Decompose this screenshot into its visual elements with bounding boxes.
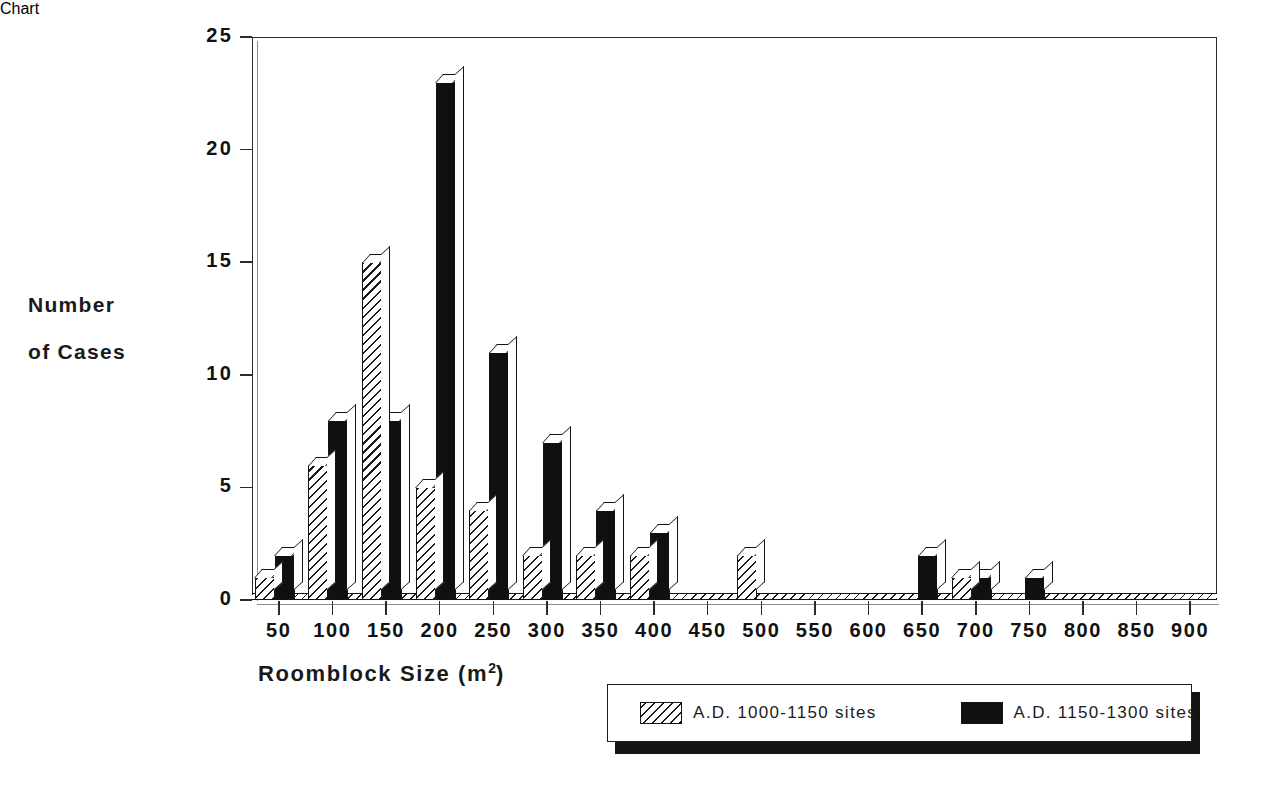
y-tick-label-0: 0 bbox=[173, 587, 233, 610]
x-axis-title-base: Roomblock Size (m bbox=[258, 661, 488, 686]
x-tick-850 bbox=[1136, 601, 1138, 615]
bar-side-face bbox=[542, 539, 551, 590]
bar-700-series1 bbox=[952, 577, 972, 600]
legend-label-1: A.D. 1000-1150 sites bbox=[693, 703, 877, 723]
y-tick-label-10: 10 bbox=[173, 362, 233, 385]
x-tick-450 bbox=[707, 601, 709, 615]
legend-label-2: A.D. 1150-1300 sites bbox=[1014, 703, 1198, 723]
legend-entry-1: A.D. 1000-1150 sites bbox=[640, 702, 877, 724]
x-tick-500 bbox=[761, 601, 763, 615]
bar-150-series1 bbox=[362, 262, 382, 600]
solid-black-swatch-icon bbox=[961, 702, 1003, 724]
hatched-swatch-icon bbox=[640, 702, 682, 724]
x-tick-600 bbox=[868, 601, 870, 615]
y-tick-label-20: 20 bbox=[173, 137, 233, 160]
x-tick-650 bbox=[921, 601, 923, 615]
bar-750-series2 bbox=[1025, 577, 1045, 600]
bar-side-face bbox=[455, 66, 464, 590]
x-tick-400 bbox=[653, 601, 655, 615]
legend-entry-2: A.D. 1150-1300 sites bbox=[961, 702, 1198, 724]
x-axis-title: Roomblock Size (m2) bbox=[258, 660, 505, 687]
bar-side-face bbox=[401, 404, 410, 590]
bar-100-series1 bbox=[308, 465, 328, 600]
bar-650-series2 bbox=[918, 555, 938, 600]
bar-500-series1 bbox=[737, 555, 757, 600]
x-tick-200 bbox=[439, 601, 441, 615]
x-tick-label-900: 900 bbox=[1155, 619, 1225, 642]
x-tick-350 bbox=[600, 601, 602, 615]
x-axis-title-superscript: 2 bbox=[488, 660, 496, 676]
y-tick-label-5: 5 bbox=[173, 474, 233, 497]
bar-side-face bbox=[347, 404, 356, 590]
y-tick-0 bbox=[240, 599, 252, 601]
y-tick-25 bbox=[240, 36, 252, 38]
bar-side-face bbox=[294, 539, 303, 590]
bar-side-face bbox=[649, 539, 658, 590]
bar-side-face bbox=[669, 516, 678, 590]
bar-side-face bbox=[327, 449, 336, 590]
y-tick-10 bbox=[240, 374, 252, 376]
x-tick-50 bbox=[278, 601, 280, 615]
bar-side-face bbox=[756, 539, 765, 590]
y-tick-15 bbox=[240, 261, 252, 263]
x-tick-800 bbox=[1082, 601, 1084, 615]
bar-400-series1 bbox=[630, 555, 650, 600]
bar-side-face bbox=[595, 539, 604, 590]
y-tick-label-15: 15 bbox=[173, 249, 233, 272]
x-axis-title-tail: ) bbox=[496, 661, 505, 686]
bar-side-face bbox=[435, 471, 444, 590]
bar-200-series1 bbox=[416, 487, 436, 600]
y-tick-label-25: 25 bbox=[173, 24, 233, 47]
bar-side-face bbox=[488, 494, 497, 590]
bar-250-series1 bbox=[469, 510, 489, 600]
plot-left-edge-shade bbox=[257, 41, 258, 601]
x-tick-100 bbox=[332, 601, 334, 615]
bar-side-face bbox=[381, 246, 390, 590]
y-axis-title-line-1: Number bbox=[28, 281, 208, 328]
x-tick-550 bbox=[814, 601, 816, 615]
bar-side-face bbox=[508, 336, 517, 590]
x-tick-300 bbox=[546, 601, 548, 615]
bar-side-face bbox=[562, 426, 571, 590]
legend-box: A.D. 1000-1150 sites A.D. 1150-1300 site… bbox=[607, 684, 1192, 742]
bar-50-series1 bbox=[255, 577, 275, 600]
bar-300-series1 bbox=[523, 555, 543, 600]
x-tick-750 bbox=[1029, 601, 1031, 615]
y-tick-5 bbox=[240, 487, 252, 489]
y-tick-20 bbox=[240, 149, 252, 151]
x-tick-900 bbox=[1189, 601, 1191, 615]
x-tick-700 bbox=[975, 601, 977, 615]
bar-350-series1 bbox=[576, 555, 596, 600]
x-tick-150 bbox=[385, 601, 387, 615]
bar-side-face bbox=[615, 494, 624, 590]
x-tick-250 bbox=[493, 601, 495, 615]
plot-bottom-edge-shade bbox=[257, 604, 1219, 605]
chart-canvas: Number of Cases 0510152025 5010015020025… bbox=[0, 0, 1263, 787]
bar-side-face bbox=[937, 539, 946, 590]
